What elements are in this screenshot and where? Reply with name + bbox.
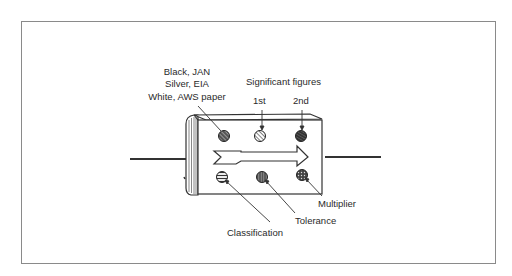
label-tolerance: Tolerance xyxy=(295,215,336,227)
label-classification-line2: Silver, EIA xyxy=(137,78,237,90)
label-classification: Classification xyxy=(227,227,283,239)
label-significant-figures: Significant figures xyxy=(246,76,321,88)
dot-first-figure xyxy=(255,131,266,142)
dot-classification-type xyxy=(219,131,230,142)
label-classification-line3: White, AWS paper xyxy=(137,91,237,103)
label-second: 2nd xyxy=(293,95,309,107)
label-multiplier: Multiplier xyxy=(318,198,356,210)
label-first: 1st xyxy=(253,95,266,107)
label-classification-line1: Black, JAN xyxy=(137,66,237,78)
dot-second-figure xyxy=(296,131,307,142)
